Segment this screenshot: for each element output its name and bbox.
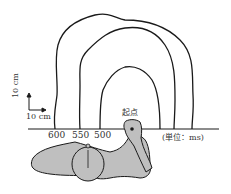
unit-label: (単位：ms)	[162, 134, 204, 142]
scale-bar	[27, 93, 46, 112]
contour-label-600: 600	[48, 131, 65, 140]
start-point-dot	[130, 127, 134, 131]
start-label: 起点	[122, 109, 138, 117]
scale-horizontal-label: 10 cm	[26, 113, 51, 121]
contour-label-550: 550	[72, 131, 89, 140]
contour-label-500: 500	[94, 131, 111, 140]
scale-vertical-label: 10 cm	[12, 73, 20, 98]
reach-diagram	[0, 0, 231, 194]
